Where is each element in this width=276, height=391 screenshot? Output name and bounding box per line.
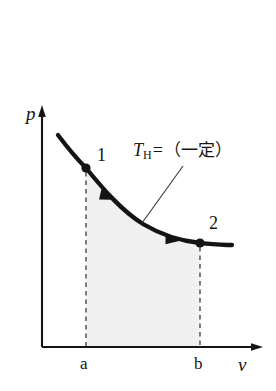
pv-diagram-figure: p v a b 1 2 TH=（一定） xyxy=(0,0,276,391)
annotation-leader-line xyxy=(142,166,183,223)
state-label-1: 1 xyxy=(97,146,106,164)
state-point-2 xyxy=(195,238,204,247)
state-label-2: 2 xyxy=(209,214,218,232)
x-axis-arrowhead xyxy=(251,343,263,350)
pv-diagram-canvas xyxy=(0,0,276,391)
annotation-equals: = xyxy=(153,141,163,159)
y-axis-label: p xyxy=(26,104,36,123)
y-axis-arrowhead xyxy=(38,105,46,117)
x-tick-label-b: b xyxy=(194,355,203,372)
annotation-subscript: H xyxy=(143,149,152,161)
annotation-symbol: T xyxy=(133,141,143,159)
isotherm-annotation: TH=（一定） xyxy=(133,141,232,159)
x-tick-label-a: a xyxy=(80,355,88,372)
annotation-value: （一定） xyxy=(164,142,232,159)
x-axis-label: v xyxy=(238,355,246,374)
state-point-1 xyxy=(81,163,90,172)
